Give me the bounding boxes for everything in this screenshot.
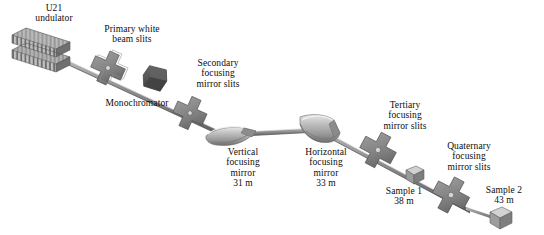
label-quaternary-focusing-mirror-slits: Quaternary focusing mirror slits bbox=[423, 141, 515, 172]
distance-sample-1: 38 m bbox=[369, 196, 439, 206]
label-sample-1: Sample 1 38 m bbox=[369, 186, 439, 207]
distance-sample-2: 43 m bbox=[470, 195, 538, 205]
beamline-diagram: U21 undulator Primary white beam slits M… bbox=[0, 0, 544, 235]
monochromator-icon bbox=[139, 62, 171, 94]
label-monochromator: Monochromator bbox=[88, 98, 186, 108]
sample-2-icon bbox=[490, 207, 512, 229]
distance-horizontal-focusing-mirror: 33 m bbox=[285, 178, 367, 188]
undulator-body bbox=[12, 28, 70, 72]
label-tertiary-focusing-mirror-slits: Tertiary focusing mirror slits bbox=[361, 100, 449, 131]
label-vertical-focusing-mirror: Vertical focusing mirror 31 m bbox=[205, 147, 281, 188]
distance-vertical-focusing-mirror: 31 m bbox=[205, 178, 281, 188]
label-secondary-focusing-mirror-slits: Secondary focusing mirror slits bbox=[173, 58, 263, 89]
sample-1-icon bbox=[406, 166, 424, 184]
horizontal-focusing-mirror-icon bbox=[300, 115, 340, 143]
label-undulator: U21 undulator bbox=[14, 3, 94, 24]
label-sample-2: Sample 2 43 m bbox=[470, 185, 538, 206]
label-primary-white-beam-slits: Primary white beam slits bbox=[82, 24, 182, 45]
label-horizontal-focusing-mirror: Horizontal focusing mirror 33 m bbox=[285, 147, 367, 188]
